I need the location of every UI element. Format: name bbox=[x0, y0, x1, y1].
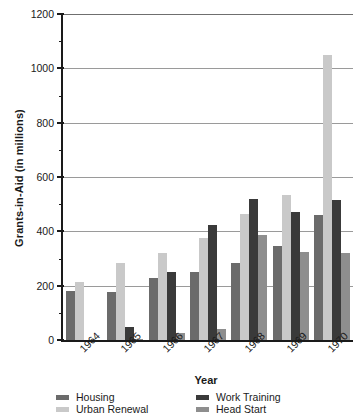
bar-groups bbox=[63, 14, 353, 340]
bar-group bbox=[149, 14, 185, 340]
legend-entry: Head Start bbox=[196, 403, 332, 415]
bar-group bbox=[66, 14, 102, 340]
bar bbox=[66, 291, 75, 340]
bar bbox=[332, 200, 341, 340]
bar bbox=[282, 195, 291, 340]
legend-entry: Housing bbox=[56, 391, 192, 403]
bar bbox=[158, 253, 167, 340]
plot-area: 020040060080010001200 bbox=[61, 14, 353, 342]
y-axis-tick-label: 1000 bbox=[31, 62, 54, 74]
bar bbox=[208, 225, 217, 340]
bar bbox=[323, 55, 332, 340]
legend-label: Head Start bbox=[216, 403, 266, 415]
bar bbox=[231, 263, 240, 340]
bar bbox=[314, 215, 323, 340]
bar bbox=[258, 235, 267, 340]
bar bbox=[341, 253, 350, 340]
legend-swatch-head-start bbox=[196, 407, 209, 412]
bar-group bbox=[190, 14, 226, 340]
y-axis-tick-label: 200 bbox=[36, 280, 54, 292]
x-axis-title: Year bbox=[61, 374, 351, 386]
legend-entry: Urban Renewal bbox=[56, 403, 192, 415]
bar bbox=[240, 214, 249, 340]
y-axis-title: Grants-in-Aid (in millions) bbox=[13, 73, 25, 283]
bar bbox=[107, 292, 116, 340]
legend-swatch-urban-renewal bbox=[56, 407, 69, 412]
y-axis-tick-label: 600 bbox=[36, 171, 54, 183]
legend-swatch-work-training bbox=[196, 395, 209, 400]
bar bbox=[149, 278, 158, 340]
bar bbox=[199, 238, 208, 340]
legend-entry: Work Training bbox=[196, 391, 332, 403]
bar bbox=[273, 246, 282, 340]
bar-group bbox=[273, 14, 309, 340]
legend-label: Work Training bbox=[216, 391, 281, 403]
bar bbox=[291, 212, 300, 340]
legend-label: Housing bbox=[76, 391, 115, 403]
bar bbox=[249, 199, 258, 340]
y-axis-tick-label: 1200 bbox=[31, 8, 54, 20]
bar-group bbox=[107, 14, 143, 340]
y-axis-tick-label: 400 bbox=[36, 225, 54, 237]
bar bbox=[75, 282, 84, 340]
chart-legend: HousingWork TrainingUrban RenewalHead St… bbox=[56, 391, 356, 415]
bar bbox=[190, 272, 199, 340]
bar-group bbox=[314, 14, 350, 340]
y-axis-tick-label: 0 bbox=[48, 334, 54, 346]
legend-label: Urban Renewal bbox=[76, 403, 148, 415]
y-axis-tick-label: 800 bbox=[36, 117, 54, 129]
legend-swatch-housing bbox=[56, 395, 69, 400]
bar bbox=[116, 263, 125, 340]
bar bbox=[300, 252, 309, 340]
bar-chart: Grants-in-Aid (in millions) 020040060080… bbox=[0, 0, 364, 416]
bar-group bbox=[231, 14, 267, 340]
